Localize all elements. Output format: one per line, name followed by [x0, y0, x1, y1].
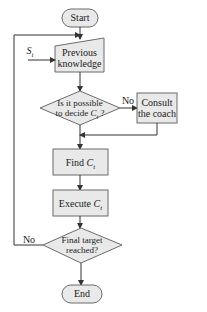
previous-knowledge-line1: Previous [55, 47, 104, 58]
decide-line2: to decide Ct ? [44, 108, 116, 122]
final-line2: reached? [50, 245, 114, 255]
find-label: Find Ct [53, 157, 108, 173]
end-label: End [62, 288, 102, 299]
decide-no-label: No [120, 95, 136, 106]
consult-line2: the coach [137, 108, 177, 119]
final-label: Final target reached? [50, 235, 114, 255]
final-line1: Final target [50, 235, 114, 245]
start-label: Start [62, 12, 98, 23]
execute-label: Execute Ct [53, 198, 108, 214]
consult-label: Consult the coach [137, 97, 177, 119]
previous-knowledge-label: Previous knowledge [55, 47, 104, 69]
previous-knowledge-line2: knowledge [55, 58, 104, 69]
flowchart: Start Si Previous knowledge Is it possib… [0, 0, 207, 312]
consult-line1: Consult [137, 97, 177, 108]
final-no-label: No [20, 234, 38, 245]
input-si-label: Si [22, 45, 38, 61]
decide-label: Is it possible to decide Ct ? [44, 98, 116, 122]
decide-line1: Is it possible [44, 98, 116, 108]
input-si-sub: i [32, 51, 34, 59]
